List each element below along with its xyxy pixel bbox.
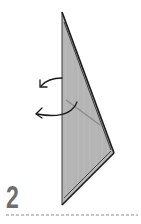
paper-shape	[62, 12, 114, 205]
fold-arrow-upper-icon	[40, 78, 62, 87]
step-number: 2	[6, 181, 19, 213]
origami-step-diagram	[0, 0, 141, 224]
